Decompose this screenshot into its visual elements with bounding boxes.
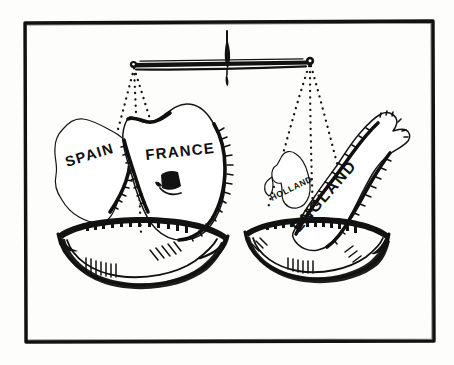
scale-beam-assembly [130, 31, 314, 87]
right-pan-hatch-c [345, 246, 361, 262]
fulcrum-drop [226, 74, 229, 87]
beam-left-knob-hole [132, 63, 135, 66]
balance-of-power-drawing: SPAIN [0, 0, 454, 365]
beam-right-knob-hole [309, 59, 312, 62]
beam-highlight-line [140, 59, 303, 61]
right-pan-contents: HOLLAND [265, 111, 410, 251]
spain-landmass [55, 119, 131, 223]
illustration-canvas: SPAIN [0, 0, 454, 365]
left-pan [58, 217, 228, 289]
left-pan-hatch-b [150, 242, 181, 260]
